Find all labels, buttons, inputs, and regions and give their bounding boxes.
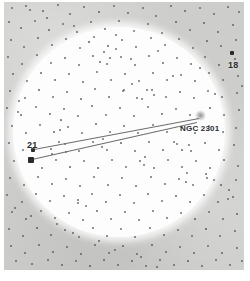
star-point [176,143,177,144]
star-point [25,218,27,220]
star-point [145,265,146,266]
star-point [76,31,78,33]
star-point [34,20,35,21]
star-point [142,7,144,9]
star-point [179,91,181,93]
star-point [101,146,103,148]
star-point [229,264,231,266]
star-point [181,149,183,151]
star-point [65,38,67,40]
star-point [215,259,216,260]
star-point [162,62,164,64]
star-point [185,181,187,183]
star-point [10,39,12,41]
star-point [227,6,229,8]
star-point [222,131,223,132]
cluster-ngc-2301 [195,110,206,121]
star-point [103,51,105,53]
star-point [180,212,181,213]
star-point [78,64,79,65]
star-point [123,125,125,127]
star-point [91,105,93,107]
star-point [51,183,52,184]
star-point [217,31,219,33]
star-point [214,93,216,95]
star-point [166,79,168,81]
star-point [221,252,223,254]
star-point [192,47,193,48]
star-point [170,5,172,7]
star-point [67,126,69,128]
star-point [156,266,158,268]
star-point [163,234,165,236]
star-point [113,5,114,6]
star-point [238,11,239,12]
star-point [24,97,25,98]
star-point [53,131,55,133]
star-point [54,217,56,219]
star-point [236,213,238,215]
star-point [191,235,192,236]
star-point [108,252,109,253]
star-point [208,72,209,73]
star-point [124,211,126,213]
star-point [173,141,174,142]
star-point [57,4,58,5]
finder-chart: 21 18 NGC 2301 [0,0,250,281]
star-point [96,71,97,72]
star-point [73,25,74,26]
star-point [68,73,69,74]
star-point [199,7,200,8]
star-point [137,132,139,134]
star-point [50,62,51,63]
star-point [220,45,221,46]
star-point [82,81,84,83]
star-point [35,193,37,195]
star-point [130,58,132,60]
star-point [63,195,65,197]
star-point [235,39,237,41]
star-point [235,179,236,180]
star-point [66,91,68,93]
star-point [12,73,14,75]
star-point [77,202,79,204]
star-point [223,114,224,115]
star-point [15,260,16,261]
star-point [155,15,156,16]
star-point [110,218,111,219]
star-point [217,201,219,203]
star-point [175,21,177,23]
star-point [162,149,164,151]
star-point [184,10,186,12]
star-point [78,150,79,151]
star-point [21,201,22,202]
star-point [120,56,122,58]
star-point [13,160,14,161]
star-point [59,129,61,131]
star-point [94,244,96,246]
star-point [193,97,194,98]
star-point [204,56,205,57]
star-point [105,201,107,203]
star-point [90,21,91,22]
star-point [159,259,161,261]
label-star-21: 21 [27,140,37,150]
star-point [236,92,237,93]
star-point [195,160,196,161]
star-point [93,176,94,177]
star-point [105,114,106,115]
star-point [133,202,134,203]
star-point [190,150,192,152]
star-point [124,73,126,75]
star-point [134,236,136,238]
star-point [106,149,107,150]
star-point [78,236,79,237]
star-point [194,80,196,82]
star-point [175,108,176,109]
star-point [117,264,118,265]
star-point [56,223,57,224]
star-point [69,13,71,15]
star-point [38,89,40,91]
star-point [188,144,189,145]
star-point [62,23,63,24]
